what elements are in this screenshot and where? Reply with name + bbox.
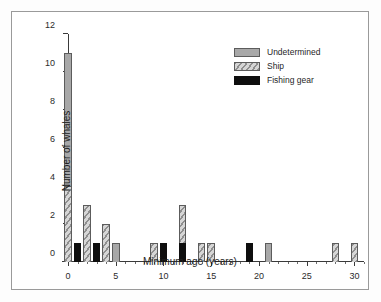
legend-swatch-fishing: [234, 76, 260, 85]
legend-item-ship: Ship: [234, 62, 320, 71]
bar-segment-ship: [64, 186, 72, 262]
legend-swatch-ship: [234, 62, 260, 71]
x-tick-label: 20: [254, 272, 264, 281]
bar-segment-ship: [83, 205, 91, 262]
bar-stack: [83, 205, 91, 262]
x-tick-label: 15: [206, 272, 216, 281]
y-tick-label: 12: [45, 21, 55, 30]
legend-swatch-undetermined: [234, 48, 260, 57]
x-tick-label: 0: [65, 272, 70, 281]
legend-label: Fishing gear: [267, 76, 314, 85]
x-axis-title: Minimum age (years): [12, 256, 368, 267]
y-tick-label: 8: [50, 97, 55, 106]
legend-item-fishing: Fishing gear: [234, 76, 320, 85]
figure-frame: 024681012 051015202530 Number of whales …: [11, 11, 369, 290]
y-tick-label: 4: [50, 173, 55, 182]
y-tick-label: 6: [50, 135, 55, 144]
y-tick-label: 2: [50, 211, 55, 220]
bar-segment-ship: [179, 205, 187, 243]
x-tick-label: 5: [113, 272, 118, 281]
y-tick: 12: [63, 33, 68, 34]
chart-legend: UndeterminedShipFishing gear: [234, 48, 320, 85]
y-tick-label: 10: [45, 59, 55, 68]
x-tick-label: 25: [302, 272, 312, 281]
y-axis-title: Number of whales: [61, 110, 72, 191]
legend-item-undetermined: Undetermined: [234, 48, 320, 57]
legend-label: Undetermined: [267, 48, 320, 57]
x-tick-label: 10: [158, 272, 168, 281]
chart-figure: 024681012 051015202530 Number of whales …: [0, 0, 381, 302]
x-tick-label: 30: [349, 272, 359, 281]
bar-stack: [179, 205, 187, 262]
legend-label: Ship: [267, 62, 284, 71]
